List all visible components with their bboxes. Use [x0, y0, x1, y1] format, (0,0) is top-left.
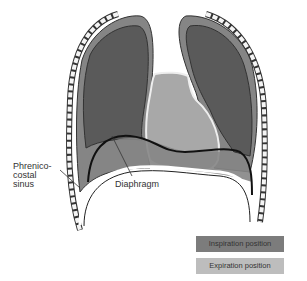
legend-expiration: Expiration position	[196, 258, 284, 274]
diaphragm-label: Diaphragm	[115, 180, 159, 189]
label-line-3: sinus	[13, 180, 63, 189]
diaphragm-inspiration-outline	[84, 171, 250, 226]
phrenicocostal-sinus-label: Phrenico- costal sinus	[13, 162, 63, 189]
legend-inspiration: Inspiration position	[196, 236, 284, 252]
